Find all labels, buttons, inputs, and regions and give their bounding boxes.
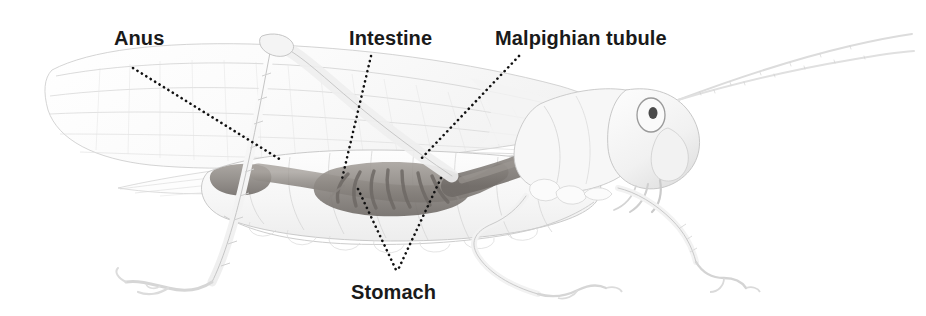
label-stomach: Stomach <box>351 281 436 303</box>
head-group <box>608 89 700 212</box>
grasshopper-anatomy-figure: Anus Intestine Malpighian tubule Stomach <box>0 0 926 316</box>
label-anus: Anus <box>114 27 164 49</box>
antenna-lower <box>678 51 914 100</box>
hind-leg-tarsus <box>126 281 212 290</box>
label-malpighian-tubule: Malpighian tubule <box>495 27 667 49</box>
antennae-group <box>678 34 914 100</box>
label-intestine: Intestine <box>349 27 432 49</box>
